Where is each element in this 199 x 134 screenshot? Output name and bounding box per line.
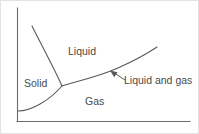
region-label-solid: Solid (24, 77, 48, 89)
figure-border (1, 1, 199, 134)
callout-arrow-head (110, 71, 118, 78)
region-label-liquid: Liquid (68, 45, 96, 57)
region-label-gas: Gas (85, 95, 104, 107)
sublimation-curve (18, 86, 62, 111)
phase-diagram-figure: Solid Liquid Gas Liquid and gas (0, 0, 199, 134)
phase-diagram-canvas: Solid Liquid Gas Liquid and gas (0, 0, 199, 134)
callout-label-liquid-and-gas: Liquid and gas (124, 74, 192, 86)
